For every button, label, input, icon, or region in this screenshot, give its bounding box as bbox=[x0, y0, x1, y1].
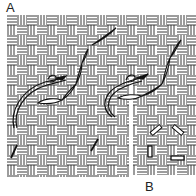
canvas-grid-lower-right bbox=[133, 77, 196, 175]
embroidery-diagram bbox=[0, 0, 196, 196]
stitch-mark-vertical bbox=[148, 146, 152, 157]
stitch-mark-horizontal bbox=[171, 156, 184, 160]
